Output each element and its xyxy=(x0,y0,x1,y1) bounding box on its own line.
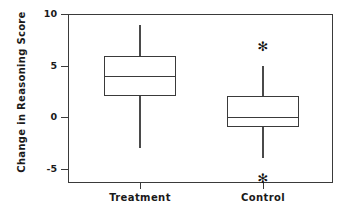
y-tick-mark-10 xyxy=(61,14,68,15)
whisker-upper-control xyxy=(262,66,264,97)
y-tick-label-0: 0 xyxy=(50,110,57,123)
y-axis-title: Change in Reasoning Score xyxy=(14,2,30,182)
boxplot-figure: Change in Reasoning Score 10 5 0 -5 ✻ xyxy=(0,0,349,220)
whisker-upper-treatment xyxy=(139,25,141,58)
whisker-lower-control xyxy=(262,127,264,158)
y-tick-mark-neg5 xyxy=(61,169,68,170)
y-tick-mark-5 xyxy=(61,66,68,67)
y-tick-10: 10 xyxy=(0,14,68,15)
whisker-lower-treatment xyxy=(139,96,141,148)
x-tick-mark-control xyxy=(263,183,264,189)
x-tick-treatment: Treatment xyxy=(140,183,141,220)
median-line-treatment xyxy=(104,76,176,77)
outlier-lower-control: ✻ xyxy=(256,176,270,182)
y-tick-label-neg5: -5 xyxy=(46,162,57,175)
x-tick-control: Control xyxy=(263,183,264,220)
box-rect-control xyxy=(227,96,299,127)
x-tick-label-control: Control xyxy=(203,192,323,203)
median-line-control xyxy=(227,117,299,118)
y-tick-0: 0 xyxy=(0,117,68,118)
y-tick-label-10: 10 xyxy=(44,7,57,20)
outlier-upper-control: ✻ xyxy=(256,44,270,50)
y-tick-5: 5 xyxy=(0,66,68,67)
x-tick-mark-treatment xyxy=(140,183,141,189)
x-tick-label-treatment: Treatment xyxy=(80,192,200,203)
y-tick-mark-0 xyxy=(61,117,68,118)
y-tick-neg5: -5 xyxy=(0,169,68,170)
y-tick-label-5: 5 xyxy=(50,59,57,72)
